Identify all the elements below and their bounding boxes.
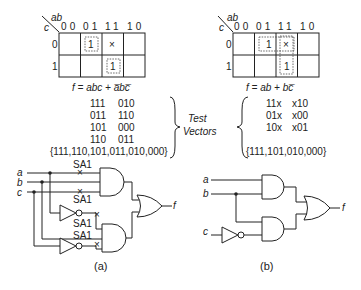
inverter-bubble (76, 210, 82, 216)
circuit-b-output-f: f (342, 202, 346, 213)
kmap-b-cell-1-2: 1 (284, 61, 290, 72)
tv-a-set: {111,110,101,011,010,000} (50, 146, 168, 157)
brace-right (170, 97, 180, 158)
kmap-b-cell-0-2: × (283, 39, 289, 50)
kmap-b-row-header-1: 1 (226, 61, 232, 72)
tv-a-1-1: 110 (118, 110, 134, 121)
kmap-b-col-header-1: 01 (256, 21, 274, 32)
circuit-b-input-a: a (203, 174, 209, 185)
center-label-vectors: Vectors (183, 126, 217, 137)
kmap-a-col-header-3: 10 (127, 21, 145, 32)
or-gate (304, 196, 330, 220)
inverter-gate (222, 227, 238, 243)
circuit-b-input-c: c (203, 226, 208, 237)
circuit-b-input-b: b (203, 188, 209, 199)
tv-a-1-0: 011 (90, 110, 106, 121)
kmap-a-cell-0-2: × (109, 39, 115, 50)
kmap-b-col-header-0: 00 (234, 21, 252, 32)
fault-label-sa1: SA1 (73, 194, 92, 205)
tv-b-0-1: x10 (292, 98, 309, 109)
kmap-a-row-header-1: 1 (52, 61, 58, 72)
or-gate (137, 195, 162, 217)
tv-b-1-1: x00 (292, 110, 309, 121)
and-gate (100, 168, 124, 196)
kmap-a: ab c 00 01 11 10 0 1 1 × 1 (42, 12, 145, 77)
kmap-b-col-header-2: 11 (278, 21, 295, 32)
equation-b: f = ab + bc̅ (246, 82, 295, 93)
kmap-a-col-header-2: 11 (105, 21, 122, 32)
figure-canvas: ab c 00 01 11 10 0 1 1 × 1 f = abc + a̅b… (0, 0, 361, 290)
fault-label-sa1: SA1 (73, 218, 92, 229)
test-vectors-b: 11x x10 01x x00 10x x01 {111,101,010,000… (237, 97, 327, 158)
circuit-a-output-f: f (173, 200, 177, 211)
tv-a-0-0: 111 (90, 98, 106, 109)
fault-x-icon: × (94, 209, 100, 220)
kmap-a-row-header-0: 0 (52, 39, 58, 50)
inverter-bubble (238, 232, 244, 238)
tv-a-0-1: 010 (118, 98, 135, 109)
kmap-a-cell-1-2: 1 (110, 61, 116, 72)
kmap-b-cell-0-1: 1 (266, 39, 272, 50)
kmap-b: ab c 00 01 11 10 0 1 1 × 1 (218, 12, 319, 77)
tv-b-0-0: 11x (266, 98, 281, 109)
tv-a-2-1: 000 (118, 122, 135, 133)
tv-a-3-0: 110 (90, 134, 106, 145)
center-label-test: Test (188, 113, 208, 124)
circuit-a: a b c SA1 × × SA1 × SA1 × SA1 (17, 159, 177, 254)
tv-b-set: {111,101,010,000} (246, 146, 327, 157)
kmap-b-row-header-0: 0 (226, 39, 232, 50)
kmap-b-row-var: c (219, 22, 224, 33)
tv-a-2-0: 101 (90, 122, 107, 133)
and-gate (102, 224, 126, 252)
circuit-b: a b c f (203, 174, 346, 243)
tv-b-2-0: 10x (266, 122, 282, 133)
fault-x-icon: × (94, 239, 100, 250)
kmap-a-col-header-0: 00 (61, 21, 79, 32)
and-gate (262, 217, 284, 241)
inverter-bubble (76, 243, 82, 249)
tv-a-3-1: 011 (118, 134, 134, 145)
equation-a: f = abc + a̅bc̅ (72, 82, 131, 93)
caption-a: (a) (94, 260, 107, 272)
test-vectors-a: 111 010 011 110 101 000 110 011 {111,110… (50, 97, 180, 158)
circuit-a-input-c: c (17, 187, 22, 198)
kmap-a-col-header-1: 01 (83, 21, 101, 32)
tv-b-1-0: 01x (266, 110, 282, 121)
fault-label-sa1: SA1 (73, 230, 92, 241)
kmap-b-col-header-3: 10 (300, 21, 318, 32)
tv-b-2-1: x01 (292, 122, 309, 133)
caption-b: (b) (260, 260, 273, 272)
kmap-a-row-var: c (44, 22, 49, 33)
kmap-a-cell-0-1: 1 (88, 39, 94, 50)
fault-x-icon: × (77, 167, 83, 178)
and-gate (262, 175, 284, 199)
